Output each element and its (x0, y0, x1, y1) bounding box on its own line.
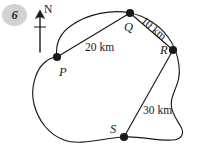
distance-label-rs: 30 km (143, 105, 172, 117)
north-arrow-icon (35, 10, 46, 52)
north-label: N (44, 4, 52, 16)
figure-container: 6 N P Q R S 20 km 10 km 30 km (0, 0, 198, 153)
vertex-dot-q (126, 9, 134, 17)
vertex-dot-s (120, 133, 128, 141)
vertex-label-q: Q (124, 21, 133, 34)
vertex-dot-p (53, 53, 61, 61)
exercise-number-badge: 6 (2, 4, 27, 26)
vertex-label-s: S (110, 123, 116, 136)
segment-rs (124, 50, 173, 137)
vertex-label-p: P (59, 66, 67, 79)
vertex-dot-r (169, 46, 177, 54)
vertex-label-r: R (160, 44, 168, 57)
distance-label-pq: 20 km (85, 42, 114, 54)
diagram-svg (0, 0, 198, 153)
